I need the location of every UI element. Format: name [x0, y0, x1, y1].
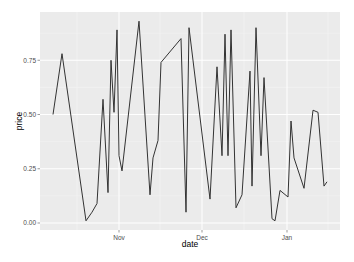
x-tick-label: Nov — [113, 234, 125, 241]
x-axis-title: date — [182, 239, 199, 249]
panel-background — [40, 12, 340, 230]
y-tick-label: 0.00 — [23, 219, 36, 226]
y-tick-label: 0.25 — [23, 165, 36, 172]
line-chart: 0.000.250.500.75 NovDecJan date price — [0, 0, 354, 262]
y-tick-label: 0.50 — [23, 111, 36, 118]
y-axis-title: price — [14, 112, 24, 131]
x-axis: NovDecJan — [113, 230, 292, 241]
y-tick-label: 0.75 — [23, 57, 36, 64]
x-tick-label: Jan — [282, 234, 293, 241]
y-axis: 0.000.250.500.75 — [23, 57, 40, 227]
